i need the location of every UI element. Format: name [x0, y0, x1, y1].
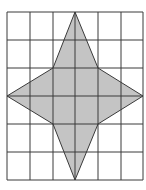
grid-lines	[7, 12, 143, 180]
grid-diagram	[0, 0, 146, 190]
